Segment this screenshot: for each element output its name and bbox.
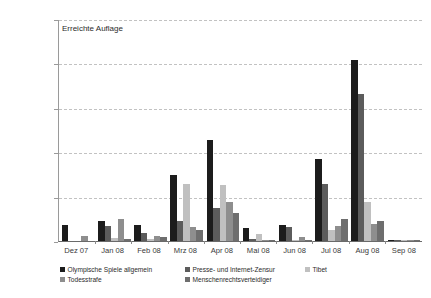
legend-label: Todesstrafe xyxy=(68,276,102,283)
x-tick-mark xyxy=(276,241,277,244)
legend-label: Presse- und Internet-Zensur xyxy=(193,266,275,273)
bar-group xyxy=(313,20,349,241)
x-tick-label: Jun 08 xyxy=(276,246,312,255)
x-tick-label: Apr 08 xyxy=(204,246,240,255)
x-tick-mark xyxy=(385,241,386,244)
bar-group xyxy=(205,20,241,241)
x-tick-label: Mai 08 xyxy=(240,246,276,255)
bar xyxy=(160,237,167,241)
x-tick-mark xyxy=(349,241,350,244)
legend-label: Menschenrechtsverteidiger xyxy=(193,276,272,283)
bar-group xyxy=(169,20,205,241)
x-tick-mark xyxy=(168,241,169,244)
bar-group xyxy=(241,20,277,241)
x-axis: Dez 07Jan 08Feb 08Mrz 08Apr 08Mai 08Jun … xyxy=(58,246,422,255)
legend-swatch-icon xyxy=(60,277,65,282)
legend-item[interactable]: Todesstrafe xyxy=(60,276,185,283)
bar xyxy=(81,236,88,241)
legend-swatch-icon xyxy=(185,267,190,272)
x-tick-label: Dez 07 xyxy=(58,246,94,255)
bar-group xyxy=(277,20,313,241)
x-tick-mark xyxy=(312,241,313,244)
bar xyxy=(305,240,312,241)
bar xyxy=(233,213,240,241)
bar xyxy=(124,239,131,241)
legend-swatch-icon xyxy=(60,267,65,272)
x-tick-label: Sep 08 xyxy=(386,246,422,255)
bar xyxy=(62,225,69,241)
x-tick-label: Jul 08 xyxy=(313,246,349,255)
bar-group xyxy=(386,20,422,241)
x-tick-mark xyxy=(204,241,205,244)
bar xyxy=(341,219,348,241)
bar-group xyxy=(96,20,132,241)
bar-group xyxy=(132,20,168,241)
x-tick-mark xyxy=(131,241,132,244)
chart-title: Erreichte Auflage xyxy=(62,24,123,33)
bar xyxy=(269,240,276,241)
plot-area xyxy=(58,20,422,242)
legend-item[interactable]: Presse- und Internet-Zensur xyxy=(185,266,305,273)
bar-chart: 010.000.00020.000.00030.000.00040.000.00… xyxy=(0,0,431,298)
bar-group xyxy=(60,20,96,241)
legend-swatch-icon xyxy=(185,277,190,282)
bar xyxy=(286,227,293,241)
bar xyxy=(377,221,384,241)
legend-item[interactable]: Menschenrechtsverteidiger xyxy=(185,276,305,283)
chart-legend: Olympische Spiele allgemeinPresse- und I… xyxy=(60,266,410,286)
bar-groups xyxy=(60,20,422,241)
y-tick-mark xyxy=(54,242,58,243)
x-tick-label: Jan 08 xyxy=(94,246,130,255)
x-tick-mark xyxy=(95,241,96,244)
bar xyxy=(118,219,125,241)
x-tick-label: Feb 08 xyxy=(131,246,167,255)
bar-group xyxy=(350,20,386,241)
bar xyxy=(196,230,203,241)
legend-swatch-icon xyxy=(305,267,310,272)
x-tick-label: Aug 08 xyxy=(349,246,385,255)
legend-label: Olympische Spiele allgemein xyxy=(68,266,153,273)
legend-item[interactable]: Olympische Spiele allgemein xyxy=(60,266,185,273)
x-tick-mark xyxy=(240,241,241,244)
bar xyxy=(414,240,421,241)
x-tick-label: Mrz 08 xyxy=(167,246,203,255)
legend-item[interactable]: Tibet xyxy=(305,266,375,273)
legend-label: Tibet xyxy=(313,266,327,273)
